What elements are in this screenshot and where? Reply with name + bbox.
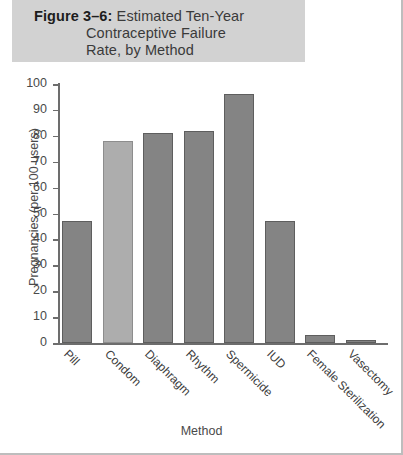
x-category-label: IUD	[264, 347, 289, 372]
x-category-label: Pill	[61, 347, 82, 368]
x-category-label: Female Sterilization	[304, 347, 388, 431]
bar	[62, 221, 92, 343]
bar	[103, 141, 133, 343]
figure-number: Figure 3–6:	[34, 8, 112, 24]
y-tick-label: 10	[7, 309, 47, 323]
y-tick-label: 20	[7, 283, 47, 297]
bar	[265, 221, 295, 343]
figure-title-line-2: Contraceptive Failure	[12, 25, 305, 42]
figure-title-line-3: Rate, by Method	[12, 42, 305, 59]
x-category-label: Condom	[102, 347, 144, 389]
bar	[305, 335, 335, 343]
y-tick-label: 50	[7, 206, 47, 220]
y-tick-label: 0	[7, 335, 47, 349]
y-tick-label: 40	[7, 231, 47, 245]
y-tick-label: 30	[7, 257, 47, 271]
figure-title-band: Figure 3–6: Estimated Ten-Year Contracep…	[12, 0, 305, 62]
plot-area	[59, 84, 385, 343]
y-tick	[53, 343, 59, 345]
x-axis-line	[58, 343, 388, 345]
bar	[224, 94, 254, 343]
figure-title-text-1: Estimated Ten-Year	[117, 8, 245, 24]
x-category-label: Rhythm	[183, 347, 222, 386]
y-tick-label: 70	[7, 154, 47, 168]
y-tick-label: 60	[7, 180, 47, 194]
figure-container: Figure 3–6: Estimated Ten-Year Contracep…	[0, 0, 403, 455]
y-tick-label: 100	[7, 76, 47, 90]
bar	[184, 131, 214, 343]
bar	[346, 340, 376, 343]
bar	[143, 133, 173, 343]
figure-title-line-1: Figure 3–6: Estimated Ten-Year	[12, 8, 305, 25]
x-axis-title: Method	[0, 424, 403, 438]
y-tick-label: 90	[7, 102, 47, 116]
y-tick-label: 80	[7, 128, 47, 142]
